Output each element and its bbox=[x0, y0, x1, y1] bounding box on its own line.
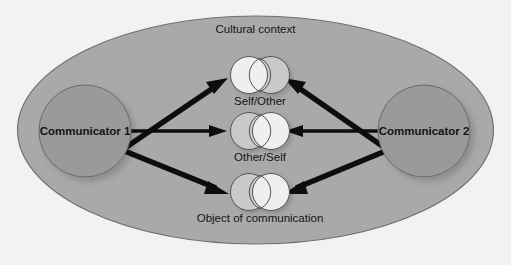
self-other-label: Self/Other bbox=[234, 95, 286, 107]
communicator-1-node[interactable]: Communicator 1 bbox=[39, 85, 131, 177]
other-self-label: Other/Self bbox=[234, 151, 287, 163]
diagram-canvas: Cultural context bbox=[0, 0, 511, 265]
communicator-2-label: Communicator 2 bbox=[379, 125, 470, 137]
communicator-2-node[interactable]: Communicator 2 bbox=[378, 85, 470, 177]
object-of-communication-label: Object of communication bbox=[197, 212, 324, 224]
pair-self-other[interactable]: Self/Other bbox=[231, 57, 290, 108]
pair-other-self[interactable]: Other/Self bbox=[231, 113, 290, 164]
cultural-context-label: Cultural context bbox=[216, 23, 297, 35]
communicator-1-label: Communicator 1 bbox=[40, 125, 131, 137]
